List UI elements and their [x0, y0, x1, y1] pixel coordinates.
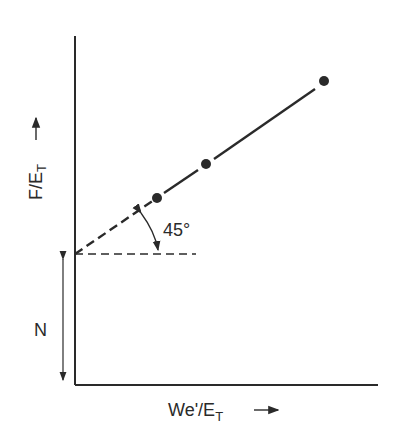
x-axis-label-main: We'/E: [168, 400, 215, 420]
data-point: [319, 76, 329, 86]
angle-arc: [141, 213, 158, 250]
fit-line-segment: [164, 170, 198, 193]
y-axis-label: F/ET: [26, 118, 49, 200]
svg-text:F/ET: F/ET: [26, 164, 49, 200]
angle-label: 45°: [163, 220, 190, 240]
intercept-label: N: [34, 320, 47, 340]
y-axis-label-main: F/E: [26, 172, 46, 200]
extrapolation-dashed-line: [75, 200, 154, 254]
svg-text:We'/ET: We'/ET: [168, 400, 223, 424]
diagram-canvas: 45° N F/ET We'/ET: [0, 0, 397, 442]
x-axis-label: We'/ET: [168, 400, 278, 424]
y-axis-label-sub: T: [34, 164, 49, 172]
x-axis-label-sub: T: [215, 409, 223, 424]
data-point: [152, 193, 162, 203]
data-point: [201, 159, 211, 169]
fit-line-segment: [214, 89, 315, 159]
